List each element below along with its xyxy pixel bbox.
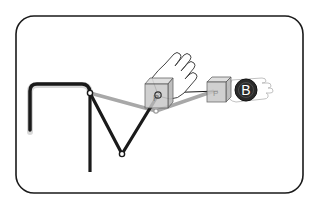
- ball-b: B: [235, 79, 257, 101]
- cube-b-label: P: [213, 89, 218, 98]
- ball-label: B: [241, 82, 250, 98]
- cube-a-label: P: [153, 93, 159, 103]
- elbow-joint: [119, 151, 124, 156]
- cube-b: P: [207, 77, 231, 102]
- cube-a: P: [145, 78, 173, 108]
- grey-joint: [154, 109, 158, 113]
- robot-arm-diagram: P P B: [0, 0, 316, 209]
- shoulder-joint: [87, 90, 92, 95]
